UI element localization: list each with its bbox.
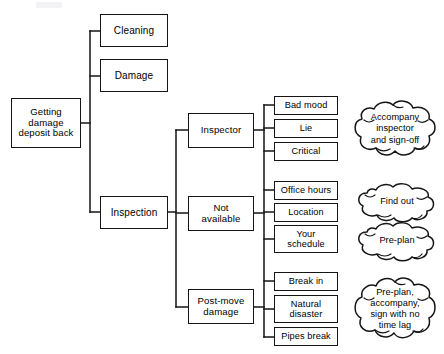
node-not-available-label: Not available bbox=[200, 203, 243, 224]
node-natural-disaster-label: Natural disaster bbox=[288, 299, 325, 320]
node-damage[interactable]: Damage bbox=[100, 59, 168, 92]
node-inspection-label: Inspection bbox=[109, 207, 160, 218]
cloud-pre-plan-label: Pre-plan bbox=[356, 221, 438, 261]
cloud-pre-plan-accompany[interactable]: Pre-plan, accompany, sign with no time l… bbox=[352, 276, 438, 342]
node-office-hours-label: Office hours bbox=[279, 185, 334, 195]
node-location-label: Location bbox=[286, 207, 326, 217]
node-post-move-damage[interactable]: Post-move damage bbox=[188, 289, 254, 324]
cloud-accompany-inspector-label: Accompany inspector and sign-off bbox=[352, 100, 438, 158]
node-root[interactable]: Getting damage deposit back bbox=[11, 98, 81, 148]
node-break-in[interactable]: Break in bbox=[274, 272, 338, 291]
node-cleaning[interactable]: Cleaning bbox=[100, 14, 168, 47]
node-pipes-break[interactable]: Pipes break bbox=[274, 327, 338, 346]
node-inspector[interactable]: Inspector bbox=[188, 113, 254, 148]
node-root-label: Getting damage deposit back bbox=[16, 107, 75, 139]
cloud-accompany-inspector[interactable]: Accompany inspector and sign-off bbox=[352, 100, 438, 158]
node-your-schedule-label: Your schedule bbox=[285, 229, 327, 250]
node-office-hours[interactable]: Office hours bbox=[274, 181, 338, 200]
node-lie[interactable]: Lie bbox=[274, 119, 338, 138]
cloud-pre-plan[interactable]: Pre-plan bbox=[356, 221, 438, 261]
scan-artifact bbox=[36, 2, 62, 8]
node-damage-label: Damage bbox=[113, 70, 155, 81]
cloud-pre-plan-accompany-label: Pre-plan, accompany, sign with no time l… bbox=[352, 276, 438, 342]
cloud-find-out[interactable]: Find out bbox=[356, 182, 438, 222]
node-location[interactable]: Location bbox=[274, 203, 338, 222]
node-your-schedule[interactable]: Your schedule bbox=[274, 225, 338, 253]
node-post-move-damage-label: Post-move damage bbox=[196, 296, 247, 317]
node-natural-disaster[interactable]: Natural disaster bbox=[274, 295, 338, 323]
node-critical[interactable]: Critical bbox=[274, 142, 338, 161]
node-critical-label: Critical bbox=[290, 146, 323, 156]
node-bad-mood-label: Bad mood bbox=[283, 100, 330, 110]
node-not-available[interactable]: Not available bbox=[188, 196, 254, 231]
node-cleaning-label: Cleaning bbox=[112, 25, 156, 36]
node-break-in-label: Break in bbox=[287, 276, 326, 286]
node-pipes-break-label: Pipes break bbox=[279, 331, 333, 341]
diagram-canvas: Getting damage deposit back Cleaning Dam… bbox=[0, 0, 444, 354]
node-inspector-label: Inspector bbox=[199, 125, 243, 136]
node-bad-mood[interactable]: Bad mood bbox=[274, 96, 338, 115]
node-inspection[interactable]: Inspection bbox=[100, 196, 168, 229]
node-lie-label: Lie bbox=[298, 123, 315, 133]
cloud-find-out-label: Find out bbox=[356, 182, 438, 222]
